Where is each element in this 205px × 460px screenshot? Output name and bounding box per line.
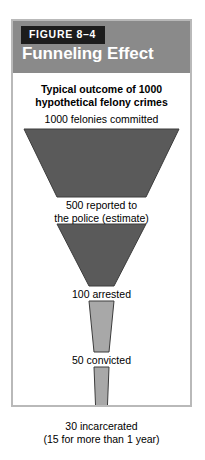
figure-body: Typical outcome of 1000 hypothetical fel… bbox=[13, 73, 190, 405]
funnel-label-stage-3: 100 arrested bbox=[13, 288, 190, 301]
funnel-segment-3 bbox=[89, 301, 114, 352]
figure-number-tag: FIGURE 8–4 bbox=[21, 26, 105, 44]
figure-card: FIGURE 8–4 Funneling Effect Typical outc… bbox=[11, 19, 192, 407]
figure-title: Funneling Effect bbox=[22, 45, 154, 64]
funnel-diagram: 1000 felonies committed 500 reported to … bbox=[13, 73, 190, 405]
funnel-label-stage-2: 500 reported to the police (estimate) bbox=[13, 199, 190, 225]
funnel-label-stage-4: 50 convicted bbox=[13, 354, 190, 367]
funnel-segment-4 bbox=[94, 367, 109, 405]
figure-header: FIGURE 8–4 Funneling Effect bbox=[13, 21, 190, 73]
funnel-segment-1 bbox=[24, 129, 179, 197]
funnel-label-stage-5: 30 incarcerated (15 for more than 1 year… bbox=[13, 420, 190, 446]
funnel-segment-2 bbox=[57, 224, 146, 286]
